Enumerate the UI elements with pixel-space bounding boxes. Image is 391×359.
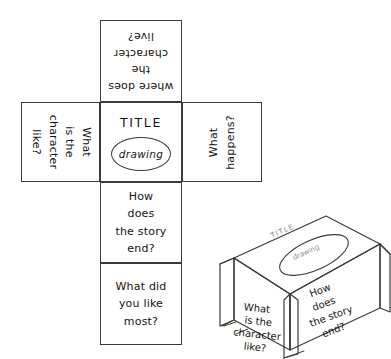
net-panel-centre-face[interactable]: TITLE drawing xyxy=(100,102,182,182)
net-panel-top-face[interactable]: where does the character live? xyxy=(100,20,182,102)
cube-left-line-2: is the xyxy=(244,314,273,328)
drawing-label: drawing xyxy=(119,148,163,160)
net-panel-bottom-face[interactable]: What did you like most? xyxy=(100,263,182,345)
assembled-cube-illustration: TITLE drawing What is the character like… xyxy=(214,208,391,359)
cube-left-line-4: like? xyxy=(243,340,266,353)
net-panel-left-face[interactable]: What is the character like? xyxy=(21,102,100,182)
cube-left-line-1: What xyxy=(243,301,270,315)
net-panel-right-face[interactable]: What happens? xyxy=(182,102,262,182)
drawing-oval-placeholder[interactable]: drawing xyxy=(111,137,171,171)
net-panel-lower-face-label: How does the story end? xyxy=(115,188,166,256)
net-panel-left-face-label: What is the character like? xyxy=(28,105,94,179)
cube-left-line-3: character xyxy=(233,326,283,342)
net-panel-right-face-label: What happens? xyxy=(206,105,239,179)
cube-flap-left xyxy=(220,258,234,326)
cube-right-face-text: How does the story end? xyxy=(298,277,358,342)
title-label: TITLE xyxy=(120,115,162,130)
net-panel-top-face-label: where does the character live? xyxy=(108,28,174,94)
cube-top-title-label: TITLE xyxy=(269,222,296,240)
net-panel-lower-face[interactable]: How does the story end? xyxy=(100,182,182,263)
cube-left-face-text: What is the character like? xyxy=(231,300,285,355)
cube-top-drawing-label: drawing xyxy=(292,243,321,262)
story-cube-net: where does the character live? What is t… xyxy=(0,0,391,359)
net-panel-bottom-face-label: What did you like most? xyxy=(115,278,166,331)
cube-flap-right xyxy=(380,244,390,312)
